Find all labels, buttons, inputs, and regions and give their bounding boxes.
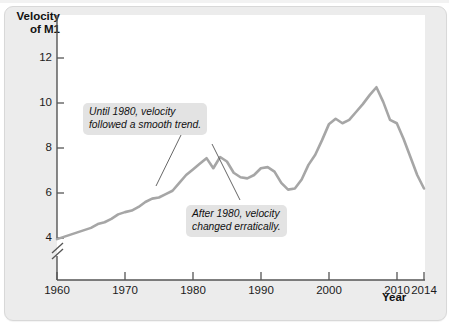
- figure-screenshot: Velocity of M1 Year: [0, 0, 449, 325]
- callout-smooth-trend: Until 1980, velocity followed a smooth t…: [83, 103, 207, 135]
- y-tick-marks: [57, 58, 64, 238]
- callout-smooth-trend-line2: followed a smooth trend.: [89, 119, 201, 132]
- x-tick-marks: [57, 272, 424, 280]
- x-tick-label-1970: 1970: [103, 284, 147, 296]
- chart-svg: [0, 0, 449, 325]
- x-tick-label-2014: 2014: [402, 284, 446, 296]
- x-tick-label-1980: 1980: [171, 284, 215, 296]
- callout-smooth-trend-leader: [156, 133, 182, 186]
- callout-erratic-leader: [212, 144, 240, 200]
- callout-erratic-line1: After 1980, velocity: [192, 208, 281, 221]
- y-tick-label-10: 10: [30, 96, 52, 108]
- callout-erratic-line2: changed erratically.: [192, 221, 281, 234]
- callout-smooth-trend-line1: Until 1980, velocity: [89, 106, 201, 119]
- x-tick-label-1990: 1990: [239, 284, 283, 296]
- y-tick-label-8: 8: [30, 141, 52, 153]
- x-tick-label-1960: 1960: [35, 284, 79, 296]
- callout-erratic: After 1980, velocity changed erratically…: [186, 205, 287, 237]
- y-tick-label-4: 4: [30, 231, 52, 243]
- y-tick-label-12: 12: [30, 51, 52, 63]
- x-tick-label-2000: 2000: [307, 284, 351, 296]
- y-tick-label-6: 6: [30, 186, 52, 198]
